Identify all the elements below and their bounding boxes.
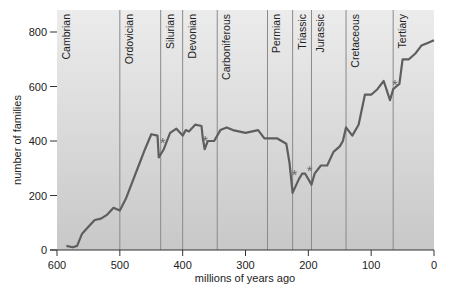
- x-tick-label: 300: [236, 259, 254, 271]
- x-tick-label: 100: [362, 259, 380, 271]
- plot-area: [57, 10, 434, 250]
- x-axis-ticks: 6005004003002001000: [48, 250, 437, 271]
- period-label-ordovician: Ordovician: [123, 14, 135, 64]
- period-label-tertiary: Tertiary: [396, 13, 408, 48]
- x-axis-title: millions of years ago: [195, 272, 295, 284]
- period-label-cretaceous: Cretaceous: [349, 14, 361, 68]
- extinction-asterisk-icon: *: [160, 134, 166, 151]
- mass-extinction-chart: CambrianOrdovicianSilurianDevonianCarbon…: [0, 0, 449, 298]
- y-tick-label: 0: [41, 244, 47, 256]
- period-label-carboniferous: Carboniferous: [220, 14, 232, 80]
- extinction-asterisk-icon: *: [392, 76, 398, 93]
- period-label-cambrian: Cambrian: [60, 14, 72, 60]
- y-tick-label: 200: [29, 190, 47, 202]
- y-axis-title: number of families: [11, 95, 23, 185]
- y-axis-ticks: 0200400600800: [29, 26, 57, 256]
- extinction-asterisk-icon: *: [292, 166, 298, 183]
- period-label-silurian: Silurian: [164, 14, 176, 49]
- x-tick-label: 200: [299, 259, 317, 271]
- y-tick-label: 800: [29, 26, 47, 38]
- x-tick-label: 400: [173, 259, 191, 271]
- y-tick-label: 400: [29, 135, 47, 147]
- x-tick-label: 0: [431, 259, 437, 271]
- extinction-asterisk-icon: *: [307, 162, 313, 179]
- extinction-asterisk-icon: *: [202, 132, 208, 149]
- period-label-devonian: Devonian: [186, 14, 198, 59]
- period-label-permian: Permian: [270, 14, 282, 53]
- x-tick-label: 600: [48, 259, 66, 271]
- y-tick-label: 600: [29, 81, 47, 93]
- period-label-jurassic: Jurassic: [314, 14, 326, 53]
- x-tick-label: 500: [111, 259, 129, 271]
- period-label-triassic: Triassic: [296, 14, 308, 50]
